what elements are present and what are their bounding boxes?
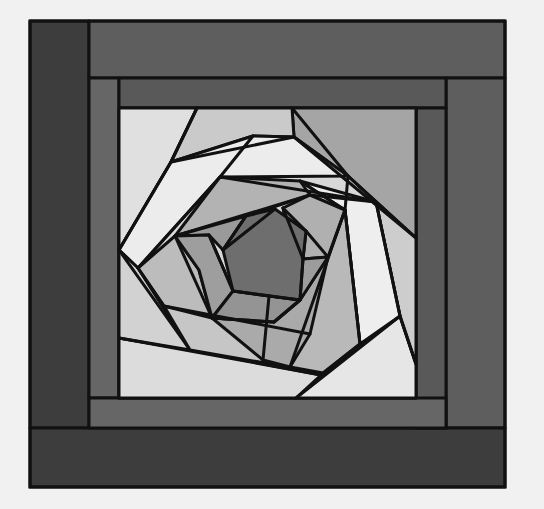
left-outer-strip — [30, 21, 89, 428]
rose-panes — [119, 108, 416, 398]
bottom-outer-strip — [30, 428, 505, 487]
left-inner-strip — [89, 78, 119, 398]
right-inner-strip — [416, 108, 446, 428]
quilt-block-figure — [0, 0, 544, 509]
top-outer-strip — [89, 21, 505, 78]
top-inner-strip — [119, 78, 446, 108]
right-outer-strip — [446, 78, 505, 428]
bottom-inner-strip — [89, 398, 446, 428]
